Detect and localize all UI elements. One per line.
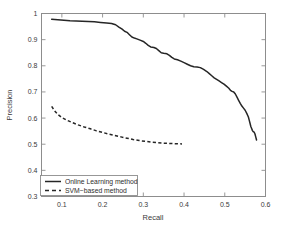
y-tick-label: 1 xyxy=(34,10,38,17)
x-axis-ticks xyxy=(62,14,266,197)
x-tick-label: 0.1 xyxy=(57,201,67,208)
x-tick-label: 0.5 xyxy=(220,201,230,208)
plot-frame xyxy=(42,14,266,197)
x-tick-label: 0.4 xyxy=(179,201,189,208)
y-tick-label: 0.9 xyxy=(28,36,38,43)
series-line-2 xyxy=(52,106,182,144)
x-tick-label: 0.6 xyxy=(261,201,271,208)
data-series-group xyxy=(52,19,257,144)
y-tick-label: 0.3 xyxy=(28,193,38,200)
legend-label-svm-based: SVM−based method xyxy=(65,187,127,194)
y-axis-tick-labels: 0.30.40.50.60.70.80.91 xyxy=(28,10,38,200)
y-tick-label: 0.7 xyxy=(28,88,38,95)
y-tick-label: 0.4 xyxy=(28,167,38,174)
chart-canvas: 0.30.40.50.60.70.80.91 0.10.20.30.40.50.… xyxy=(0,0,281,228)
chart-legend: Online Learning method SVM−based method xyxy=(41,176,138,196)
precision-recall-figure: 0.30.40.50.60.70.80.91 0.10.20.30.40.50.… xyxy=(0,0,281,228)
series-line-1 xyxy=(52,19,257,140)
x-tick-label: 0.2 xyxy=(98,201,108,208)
x-tick-label: 0.3 xyxy=(138,201,148,208)
legend-label-online-learning: Online Learning method xyxy=(65,178,138,186)
y-tick-label: 0.5 xyxy=(28,141,38,148)
x-axis-tick-labels: 0.10.20.30.40.50.6 xyxy=(57,201,270,208)
y-axis-ticks xyxy=(42,14,266,197)
y-tick-label: 0.8 xyxy=(28,62,38,69)
y-axis-title: Precision xyxy=(5,90,14,121)
x-axis-title: Recall xyxy=(143,213,164,222)
y-tick-label: 0.6 xyxy=(28,115,38,122)
